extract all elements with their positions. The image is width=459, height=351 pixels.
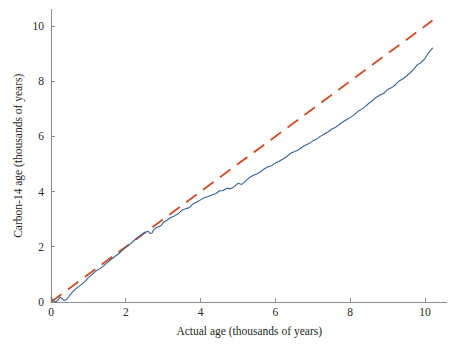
y-axis-ticks [51,26,55,247]
y-tick-label: 2 [38,241,44,253]
y-tick-label: 0 [38,296,44,308]
x-tick-label: 10 [419,306,431,318]
y-tick-label: 10 [33,20,45,32]
x-axis-title: Actual age (thousands of years) [176,325,322,338]
x-axis-ticks [126,298,425,302]
calibration-curve-series [51,48,432,302]
y-tick-label: 8 [38,75,44,87]
x-axis-tick-labels: 0246810 [48,306,431,318]
x-tick-label: 6 [273,306,279,318]
x-tick-label: 4 [198,306,204,318]
y-axis-tick-labels: 0246810 [33,20,45,308]
y-axis-title: Carbon-14 age (thousands of years) [12,73,25,237]
carbon-14-calibration-chart: 0246810 0246810 Actual age (thousands of… [0,0,459,351]
reference-line-series [51,20,432,302]
chart-canvas: 0246810 0246810 Actual age (thousands of… [0,0,459,351]
y-tick-label: 4 [38,186,44,198]
x-tick-label: 2 [123,306,129,318]
x-tick-label: 0 [48,306,54,318]
data-series-group [51,20,432,302]
x-tick-label: 8 [347,306,353,318]
y-tick-label: 6 [38,130,44,142]
